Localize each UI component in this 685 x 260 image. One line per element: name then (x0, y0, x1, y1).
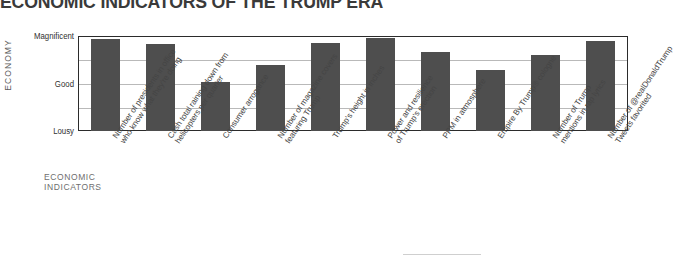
x-axis-label-line1: Empire By Trump® cologne (496, 54, 558, 140)
x-axis-label-line1: PPM in atmosphere (441, 77, 488, 140)
x-axis-label: Empire By Trump® cologne (496, 54, 559, 140)
x-axis-label: PPM in atmosphere (441, 77, 488, 140)
x-axis-label-line1: Number of magazine covers (276, 52, 339, 140)
x-axis-title-line2: INDICATORS (44, 182, 102, 192)
x-axis-label-line1: Consumer arrogance (221, 73, 270, 140)
page-edge-artifact (403, 254, 481, 255)
chart-page: ECONOMIC INDICATORS OF THE TRUMP ERA ECO… (0, 0, 685, 260)
x-axis-title-line1: ECONOMIC (44, 172, 96, 182)
x-axis-labels: Number of presidents in officewho know w… (0, 0, 685, 260)
x-axis-label-line2: Tweets favorited (613, 50, 682, 146)
x-axis-label: Consumer arrogance (221, 73, 271, 141)
x-axis-label: Number of @realDonaldTrumpTweets favorit… (606, 44, 683, 145)
x-axis-title: ECONOMIC INDICATORS (44, 172, 102, 192)
x-axis-label: Number of Trumpmentions in rap lyrics (551, 73, 608, 145)
x-axis-label-line1: Number of presidents in office (111, 47, 178, 140)
x-axis-label-line1: Number of @realDonaldTrump (606, 44, 675, 140)
x-axis-label: Power and resilienceof Trump's erection (386, 74, 443, 146)
